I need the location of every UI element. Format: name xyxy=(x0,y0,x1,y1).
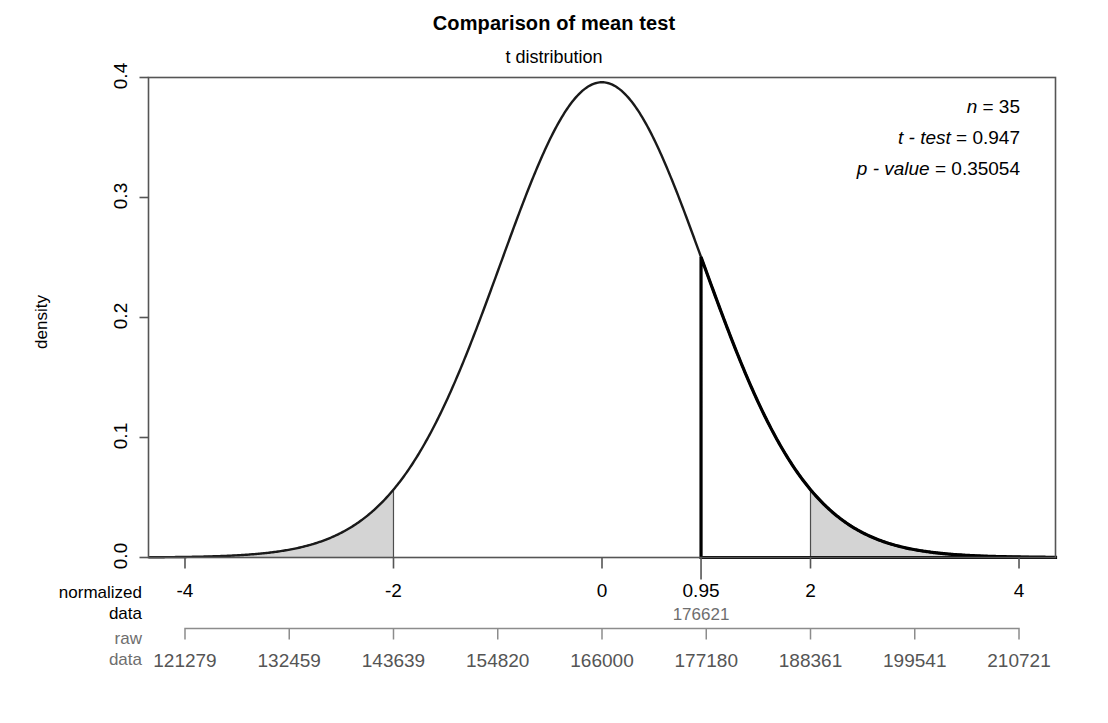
plot-frame xyxy=(149,78,1056,558)
annotation-sample-size: n = 35 xyxy=(720,96,1020,118)
x-axis-tick-marks xyxy=(185,558,1019,569)
raw-axis-tick-marks xyxy=(289,629,915,640)
statistic-raw-value-label: 176621 xyxy=(631,605,771,625)
raw-axis-name-line2: data xyxy=(109,650,142,669)
chart-subtitle: t distribution xyxy=(0,47,1108,68)
density-curve xyxy=(149,82,1056,557)
y-tick-label: 0.2 xyxy=(110,281,132,351)
annotation-t-value: 0.947 xyxy=(972,127,1020,148)
normalized-axis-name-line2: data xyxy=(109,604,142,623)
page-title: Comparison of mean test xyxy=(0,12,1108,35)
raw-axis-name: rawdata xyxy=(32,628,142,670)
y-axis-label: density xyxy=(32,262,52,382)
normalized-axis-name-line1: normalized xyxy=(59,583,142,602)
raw-axis-name-line1: raw xyxy=(115,629,142,648)
y-tick-label: 0.4 xyxy=(110,41,132,111)
x-tick-label: -4 xyxy=(125,580,245,602)
x-tick-label: -2 xyxy=(333,580,453,602)
annotation-n-value: 35 xyxy=(999,96,1020,117)
annotation-t-test: t - test = 0.947 xyxy=(720,127,1020,149)
y-tick-label: 0.1 xyxy=(110,401,132,471)
y-axis-tick-marks xyxy=(140,78,149,558)
annotation-p-value-number: 0.35054 xyxy=(951,158,1020,179)
annotation-n-equals: = xyxy=(977,96,999,117)
raw-tick-label: 210721 xyxy=(954,650,1084,672)
x-tick-label: 4 xyxy=(959,580,1079,602)
annotation-t-equals: = xyxy=(951,127,973,148)
annotation-n-variable: n xyxy=(967,96,978,117)
x-tick-label: 2 xyxy=(751,580,871,602)
annotation-p-equals: = xyxy=(930,158,952,179)
annotation-t-variable: t - test xyxy=(898,127,951,148)
chart-canvas: Comparison of mean test t distribution d… xyxy=(0,0,1108,723)
test-statistic-region-outline xyxy=(701,257,1055,557)
y-tick-label: 0.3 xyxy=(110,161,132,231)
annotation-p-value: p - value = 0.35054 xyxy=(720,158,1020,180)
normalized-axis-name: normalizeddata xyxy=(32,582,142,624)
annotation-p-variable: p - value xyxy=(857,158,930,179)
statistic-tick-label: 0.95 xyxy=(641,580,761,602)
